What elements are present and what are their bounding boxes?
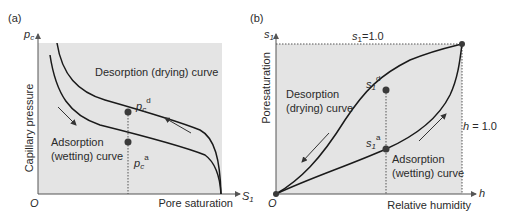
panel-b-origin: O: [268, 197, 277, 209]
panel-a-desorption-label: Desorption (drying) curve: [95, 66, 219, 78]
panel-a-tag: (a): [8, 12, 21, 24]
panel-b-desorption-label-1: Desorption: [286, 88, 339, 100]
panel-b-tag: (b): [250, 12, 263, 24]
panel-a-point-desorption: [125, 109, 132, 116]
panel-b-x-symbol: h: [479, 187, 485, 199]
panel-a-y-symbol: pc: [23, 28, 34, 42]
hysteresis-figure: (a) pc Capillary pressure S1 Pore satura…: [0, 0, 507, 220]
panel-a: (a) pc Capillary pressure S1 Pore satura…: [8, 12, 254, 209]
panel-b-adsorption-label-1: Adsorption: [392, 153, 445, 165]
panel-b: (b) s1 Poresaturation h Relative humidit…: [250, 12, 497, 211]
panel-a-adsorption-label-2: (wetting) curve: [51, 150, 123, 162]
panel-b-y-label: Poresaturation: [260, 52, 272, 124]
panel-b-point-top-right: [459, 41, 465, 47]
panel-a-y-label: Capillary pressure: [23, 84, 35, 173]
panel-b-desorption-label-2: (drying) curve: [286, 102, 353, 114]
panel-a-adsorption-label-1: Adsorption: [51, 136, 104, 148]
panel-a-x-label: Pore saturation: [158, 197, 233, 209]
panel-b-adsorption-label-2: (wetting) curve: [392, 167, 464, 179]
panel-a-origin: O: [30, 197, 39, 209]
panel-a-x-symbol: S1: [242, 190, 254, 204]
panel-b-point-desorption: [383, 87, 390, 94]
panel-b-point-adsorption: [383, 146, 390, 153]
panel-a-point-adsorption: [125, 139, 132, 146]
panel-b-y-symbol: s1: [264, 28, 274, 42]
panel-b-x-label: Relative humidity: [387, 199, 471, 211]
panel-b-s1-equals-label: s1=1.0: [352, 30, 384, 44]
panel-b-point-origin: [273, 191, 279, 197]
panel-b-h-equals-label: h = 1.0: [463, 120, 497, 132]
